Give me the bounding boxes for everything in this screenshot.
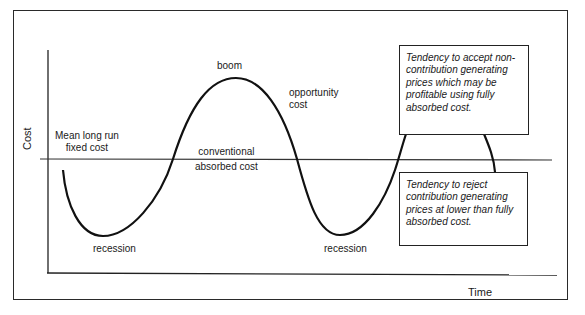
- y-axis-label: Cost: [21, 127, 33, 150]
- x-axis: [47, 273, 557, 275]
- x-axis-label: Time: [468, 286, 492, 298]
- conventional-absorbed-cost-label: conventional absorbed cost: [195, 146, 258, 173]
- boom-label: boom: [217, 60, 242, 72]
- cost-curve-connector: [484, 134, 495, 172]
- accept-callout-box: Tendency to accept non- contribution gen…: [399, 45, 529, 135]
- recession-label-1: recession: [93, 243, 136, 255]
- recession-label-2: recession: [324, 243, 367, 255]
- reject-callout-box: Tendency to reject contribution generati…: [399, 172, 528, 246]
- opportunity-cost-label: opportunity cost: [289, 87, 338, 111]
- mean-fixed-cost-label: Mean long run fixed cost: [55, 130, 119, 154]
